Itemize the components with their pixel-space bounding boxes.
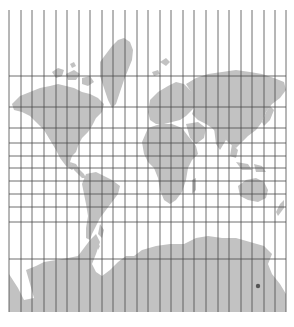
landmass-greenland bbox=[100, 38, 133, 108]
landmass-arctic-islands bbox=[52, 62, 94, 86]
location-marker bbox=[256, 284, 260, 288]
map-canvas bbox=[0, 0, 294, 327]
landmass-iceland bbox=[152, 58, 170, 76]
landmasses bbox=[9, 38, 286, 312]
world-map: Mercator world map with graticule bbox=[0, 0, 294, 327]
landmass-central-america bbox=[70, 162, 86, 178]
landmass-antarctica bbox=[9, 234, 286, 312]
landmass-new-zealand bbox=[276, 200, 284, 216]
landmass-australia bbox=[238, 178, 268, 202]
